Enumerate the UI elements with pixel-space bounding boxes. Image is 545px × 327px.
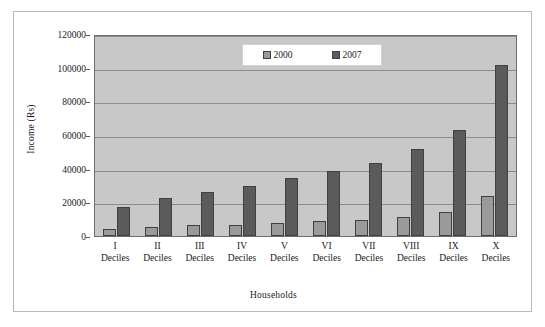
- decile-word: Deciles: [263, 253, 305, 265]
- bar-2000-3: [187, 225, 200, 236]
- bar-2007-6: [327, 171, 340, 236]
- x-axis-tick-label-4: IVDeciles: [221, 241, 263, 264]
- decile-word: Deciles: [136, 253, 178, 265]
- bar-group: [305, 36, 347, 236]
- decile-word: Deciles: [305, 253, 347, 265]
- legend-label: 2000: [274, 50, 293, 60]
- y-axis-tick-labels: 020000400006000080000100000120000: [34, 35, 90, 237]
- legend-label: 2007: [343, 50, 362, 60]
- decile-word: Deciles: [348, 253, 390, 265]
- decile-numeral: X: [475, 241, 517, 253]
- bar-group: [390, 36, 432, 236]
- bar-2000-4: [229, 225, 242, 236]
- x-axis-tick-label-7: VIIDeciles: [348, 241, 390, 264]
- decile-numeral: II: [136, 241, 178, 253]
- x-axis-tick-label-5: VDeciles: [263, 241, 305, 264]
- x-axis-tick-labels: IDecilesIIDecilesIIIDecilesIVDecilesVDec…: [94, 241, 517, 264]
- decile-word: Deciles: [94, 253, 136, 265]
- decile-numeral: III: [179, 241, 221, 253]
- bar-2007-3: [201, 192, 214, 236]
- decile-numeral: V: [263, 241, 305, 253]
- bar-2007-2: [159, 198, 172, 236]
- y-axis-tick-label: 120000: [58, 30, 87, 40]
- x-axis-tick-label-6: VIDeciles: [305, 241, 347, 264]
- bar-2007-8: [411, 149, 424, 236]
- x-axis-tick-label-1: IDeciles: [94, 241, 136, 264]
- bar-2000-9: [439, 212, 452, 236]
- bar-2000-8: [397, 217, 410, 236]
- bar-2000-5: [271, 223, 284, 236]
- bar-group: [432, 36, 474, 236]
- y-axis-tick-label: 60000: [62, 131, 86, 141]
- y-axis-tick-mark: [86, 237, 90, 238]
- x-axis-tick-label-8: VIIIDeciles: [390, 241, 432, 264]
- x-axis-tick-label-10: XDeciles: [475, 241, 517, 264]
- decile-numeral: IV: [221, 241, 263, 253]
- legend-swatch-icon: [263, 51, 271, 59]
- x-axis-title: Households: [14, 290, 533, 300]
- bar-group: [95, 36, 137, 236]
- bar-group: [263, 36, 305, 236]
- x-axis-tick-label-2: IIDeciles: [136, 241, 178, 264]
- decile-numeral: IX: [432, 241, 474, 253]
- bar-2007-10: [495, 65, 508, 236]
- bar-2007-5: [285, 178, 298, 236]
- legend-entry-2000: 2000: [263, 50, 293, 60]
- x-axis-tick-label-9: IXDeciles: [432, 241, 474, 264]
- chart-legend: 20002007: [242, 44, 382, 66]
- decile-word: Deciles: [475, 253, 517, 265]
- bar-group: [137, 36, 179, 236]
- legend-entry-2007: 2007: [332, 50, 362, 60]
- y-axis-tick-mark: [86, 136, 90, 137]
- y-axis-tick-mark: [86, 170, 90, 171]
- y-axis-tick-mark: [86, 102, 90, 103]
- y-axis-tick-mark: [86, 35, 90, 36]
- decile-word: Deciles: [390, 253, 432, 265]
- decile-numeral: I: [94, 241, 136, 253]
- bar-group: [348, 36, 390, 236]
- bar-2007-4: [243, 186, 256, 237]
- decile-numeral: VII: [348, 241, 390, 253]
- bar-2000-1: [103, 229, 116, 236]
- bar-2007-9: [453, 130, 466, 236]
- y-axis-tick-label: 20000: [62, 198, 86, 208]
- bar-group: [179, 36, 221, 236]
- bar-2000-7: [355, 220, 368, 236]
- x-axis-tick-label-3: IIIDeciles: [179, 241, 221, 264]
- decile-word: Deciles: [432, 253, 474, 265]
- y-axis-tick-mark: [86, 203, 90, 204]
- decile-word: Deciles: [179, 253, 221, 265]
- chart-frame: Income (Rs) 0200004000060000800001000001…: [13, 11, 532, 312]
- bar-group: [474, 36, 516, 236]
- bar-2007-7: [369, 163, 382, 236]
- y-axis-tick-label: 40000: [62, 165, 86, 175]
- decile-numeral: VIII: [390, 241, 432, 253]
- bars-layer: [95, 36, 516, 236]
- bar-2000-2: [145, 227, 158, 236]
- y-axis-tick-label: 80000: [62, 97, 86, 107]
- bar-group: [221, 36, 263, 236]
- legend-swatch-icon: [332, 51, 340, 59]
- decile-word: Deciles: [221, 253, 263, 265]
- y-axis-tick-mark: [86, 69, 90, 70]
- bar-2007-1: [117, 207, 130, 236]
- bar-2000-10: [481, 196, 494, 236]
- decile-numeral: VI: [305, 241, 347, 253]
- bar-2000-6: [313, 221, 326, 236]
- y-axis-tick-label: 100000: [58, 64, 87, 74]
